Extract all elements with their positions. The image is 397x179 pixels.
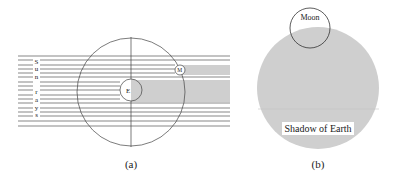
svg-text:u: u <box>35 65 39 73</box>
moon: M <box>175 65 185 75</box>
earth-label: E <box>126 87 130 95</box>
shadow-label: Shadow of Earth <box>284 123 351 134</box>
svg-text:n: n <box>35 73 39 81</box>
caption-b: (b) <box>312 158 325 171</box>
moon-label: M <box>177 67 182 73</box>
moon-shadow-band <box>180 65 230 75</box>
panel-b: Moon Shadow of Earth (b) <box>257 8 379 171</box>
svg-text:r: r <box>35 88 38 96</box>
panel-a: S u n r a y s E M (a) <box>18 37 230 171</box>
earth: E <box>120 79 142 101</box>
moon-name-label: Moon <box>300 13 319 22</box>
earth-shadow-band <box>131 80 230 102</box>
caption-a: (a) <box>125 158 138 171</box>
svg-text:s: s <box>35 111 38 119</box>
sun-rays-label: S u n r a y s <box>35 58 39 119</box>
svg-text:a: a <box>35 96 39 104</box>
eclipse-diagram: S u n r a y s E M (a) Moon <box>0 0 397 179</box>
